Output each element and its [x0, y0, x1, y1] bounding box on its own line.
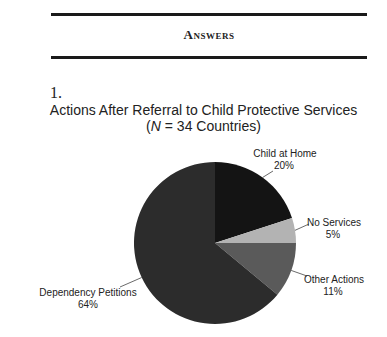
svg-text:Child at Home: Child at Home	[253, 148, 317, 159]
slice-label-other-actions: Other Actions 11%	[304, 274, 364, 297]
leader-line	[120, 277, 142, 287]
slice-label-child-at-home: Child at Home 20%	[253, 148, 317, 171]
pie-slices	[134, 162, 296, 324]
leader-line	[263, 171, 273, 177]
svg-text:20%: 20%	[274, 160, 294, 171]
svg-text:5%: 5%	[326, 229, 341, 240]
svg-text:64%: 64%	[78, 299, 98, 310]
pie-chart: Child at Home 20% No Services 5% Other A…	[0, 0, 387, 337]
svg-text:11%: 11%	[323, 286, 342, 297]
slice-label-no-services: No Services 5%	[307, 217, 361, 240]
svg-text:Dependency Petitions: Dependency Petitions	[39, 287, 136, 298]
slice-label-dependency-petitions: Dependency Petitions 64%	[39, 287, 136, 310]
svg-text:No Services: No Services	[307, 217, 361, 228]
svg-text:Other Actions: Other Actions	[304, 274, 364, 285]
